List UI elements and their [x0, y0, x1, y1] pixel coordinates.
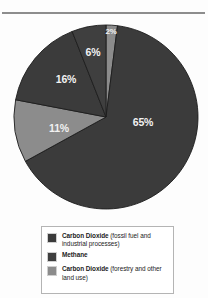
legend-item-label: Carbon Dioxide (forestry and other land … — [62, 265, 169, 281]
legend-item-lead: Carbon Dioxide — [62, 232, 109, 239]
pie-slice-group — [14, 25, 198, 209]
legend-item[interactable]: Carbon Dioxide (forestry and other land … — [47, 265, 169, 281]
legend-item[interactable]: Methane — [47, 251, 169, 262]
legend-swatch-icon — [47, 266, 57, 276]
legend-item[interactable]: Carbon Dioxide (fossil fuel and industri… — [47, 232, 169, 248]
pie-chart: 2%65%11%16%6% — [13, 20, 199, 210]
top-divider-rule — [2, 12, 205, 14]
pie-slice-label: 65% — [133, 116, 154, 128]
chart-legend: Carbon Dioxide (fossil fuel and industri… — [41, 226, 174, 294]
legend-item-lead: Methane — [62, 251, 88, 258]
pie-slice-label: 16% — [56, 73, 77, 85]
legend-swatch-icon — [47, 233, 57, 243]
legend-item-lead: Carbon Dioxide — [62, 265, 109, 272]
pie-slice-label: 6% — [86, 46, 102, 58]
pie-chart-svg: 2%65%11%16%6% — [13, 20, 199, 210]
pie-slice-label: 2% — [105, 27, 116, 36]
pie-slice-label: 11% — [49, 122, 70, 134]
chart-page: 2%65%11%16%6% Carbon Dioxide (fossil fue… — [0, 0, 208, 298]
legend-item-label: Methane — [62, 251, 88, 259]
legend-swatch-icon — [47, 252, 57, 262]
legend-item-label: Carbon Dioxide (fossil fuel and industri… — [62, 232, 169, 248]
